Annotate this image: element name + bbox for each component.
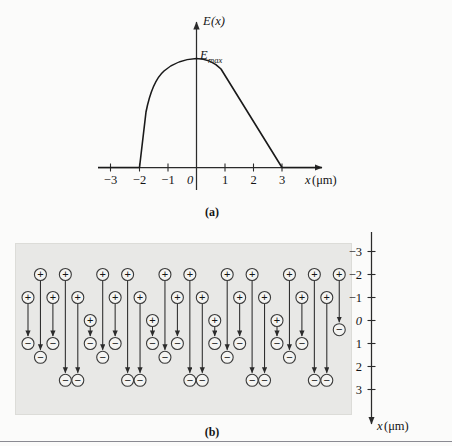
negative-charge-label: − xyxy=(299,337,305,349)
negative-charge-label: − xyxy=(99,351,105,363)
panel-b-x-axis-label-var: x xyxy=(376,419,383,433)
positive-charge-label: + xyxy=(224,268,230,280)
negative-charge-label: − xyxy=(286,351,292,363)
negative-charge-label: − xyxy=(324,374,330,386)
negative-charge-label: − xyxy=(274,337,280,349)
negative-charge-label: − xyxy=(261,374,267,386)
panel-b-caption: (b) xyxy=(205,425,220,439)
negative-charge-label: − xyxy=(162,351,168,363)
panel-b-tick-label-1: 1 xyxy=(356,337,362,351)
panel-b-x-axis-label-unit: (μm) xyxy=(384,419,409,433)
positive-charge-label: + xyxy=(274,314,280,326)
positive-charge-label: + xyxy=(336,268,342,280)
negative-charge-label: − xyxy=(311,374,317,386)
negative-charge-label: − xyxy=(336,323,342,335)
positive-charge-label: + xyxy=(261,291,267,303)
panel-a-tick-label-1: 1 xyxy=(222,173,228,187)
panel-a-emax-label-sub: max xyxy=(208,55,222,65)
panel-a-x-axis-label-var: x xyxy=(304,173,311,187)
panel-a-caption: (a) xyxy=(205,205,219,219)
figure-container: −3 −2 −1 0 1 2 3 x (μm) E (x) E max (a) xyxy=(0,0,452,446)
negative-charge-label: − xyxy=(112,337,118,349)
positive-charge-label: + xyxy=(236,291,242,303)
negative-charge-label: − xyxy=(62,374,68,386)
panel-b-tick-label--2: −2 xyxy=(349,268,362,282)
negative-charge-label: − xyxy=(87,337,93,349)
positive-charge-label: + xyxy=(149,314,155,326)
negative-charge-label: − xyxy=(137,374,143,386)
positive-charge-label: + xyxy=(75,291,81,303)
negative-charge-label: − xyxy=(25,337,31,349)
panel-a-tick-label--3: −3 xyxy=(104,173,117,187)
positive-charge-label: + xyxy=(187,268,193,280)
positive-charge-label: + xyxy=(299,291,305,303)
panel-a-emax-label-main: E xyxy=(199,48,208,62)
negative-charge-label: − xyxy=(249,374,255,386)
positive-charge-label: + xyxy=(162,268,168,280)
panel-a-curve xyxy=(98,59,322,168)
positive-charge-label: + xyxy=(25,291,31,303)
positive-charge-label: + xyxy=(286,268,292,280)
panel-a-tick-label--2: −2 xyxy=(133,173,146,187)
panel-a-y-axis-label-arg: (x) xyxy=(211,14,225,28)
panel-a: −3 −2 −1 0 1 2 3 x (μm) E (x) E max (a) xyxy=(98,14,337,219)
panel-a-tick-label-3: 3 xyxy=(279,173,285,187)
panel-b-tick-label--1: −1 xyxy=(349,291,362,305)
negative-charge-label: − xyxy=(199,374,205,386)
negative-charge-label: − xyxy=(174,337,180,349)
positive-charge-label: + xyxy=(137,291,143,303)
negative-charge-label: − xyxy=(50,337,56,349)
physics-figure: −3 −2 −1 0 1 2 3 x (μm) E (x) E max (a) xyxy=(0,0,452,446)
negative-charge-label: − xyxy=(187,374,193,386)
negative-charge-label: − xyxy=(236,337,242,349)
positive-charge-label: + xyxy=(87,314,93,326)
panel-b-tick-label-3: 3 xyxy=(356,383,362,397)
negative-charge-label: − xyxy=(149,337,155,349)
panel-a-x-axis-label-unit: (μm) xyxy=(312,173,337,187)
positive-charge-label: + xyxy=(311,268,317,280)
panel-b-tick-label--3: −3 xyxy=(349,245,362,259)
negative-charge-label: − xyxy=(37,351,43,363)
positive-charge-label: + xyxy=(37,268,43,280)
positive-charge-label: + xyxy=(99,268,105,280)
panel-a-tick-label--1: −1 xyxy=(161,173,174,187)
panel-a-tick-label-2: 2 xyxy=(250,173,256,187)
positive-charge-label: + xyxy=(324,291,330,303)
panel-a-tick-label-0: 0 xyxy=(187,173,194,187)
negative-charge-label: − xyxy=(75,374,81,386)
panel-b: +−+−+−+−+−+−+−+−+−+−+−+−+−+−+−+−+−+−+−+−… xyxy=(16,232,409,439)
positive-charge-label: + xyxy=(212,314,218,326)
panel-b-tick-label-0: 0 xyxy=(356,314,363,328)
panel-b-tick-label-2: 2 xyxy=(356,360,362,374)
negative-charge-label: − xyxy=(224,351,230,363)
positive-charge-label: + xyxy=(62,268,68,280)
panel-a-y-axis-label-main: E xyxy=(202,14,211,28)
positive-charge-label: + xyxy=(249,268,255,280)
positive-charge-label: + xyxy=(112,291,118,303)
positive-charge-label: + xyxy=(124,268,130,280)
positive-charge-label: + xyxy=(50,291,56,303)
negative-charge-label: − xyxy=(124,374,130,386)
negative-charge-label: − xyxy=(212,337,218,349)
positive-charge-label: + xyxy=(199,291,205,303)
positive-charge-label: + xyxy=(174,291,180,303)
